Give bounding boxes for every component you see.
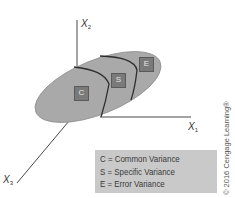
common-variance-box: C (74, 86, 89, 101)
legend: C = Common Variance S = Specific Varianc… (95, 150, 217, 193)
legend-item-error: E = Error Variance (100, 178, 203, 191)
x2-axis-letter: X (81, 18, 88, 29)
x3-axis-line (17, 121, 69, 183)
variance-ellipse (26, 37, 170, 137)
specific-variance-box: S (111, 73, 126, 88)
error-variance-box: E (139, 57, 154, 72)
legend-item-specific: S = Specific Variance (100, 166, 203, 179)
x1-axis-subscript: 1 (195, 127, 198, 133)
x2-axis-subscript: 2 (88, 24, 91, 30)
x1-axis-label: X1 (188, 122, 198, 133)
copyright-notice: © 2016 Cengage Learning® (222, 101, 231, 195)
x3-axis-subscript: 3 (10, 180, 13, 186)
variance-diagram: C S E X2 X1 X3 C = Common Variance S = S… (0, 0, 235, 198)
x2-axis-label: X2 (81, 19, 91, 30)
x3-axis-label: X3 (3, 175, 13, 186)
x3-axis-letter: X (3, 174, 10, 185)
legend-item-common: C = Common Variance (100, 153, 203, 166)
x1-axis-letter: X (188, 121, 195, 132)
